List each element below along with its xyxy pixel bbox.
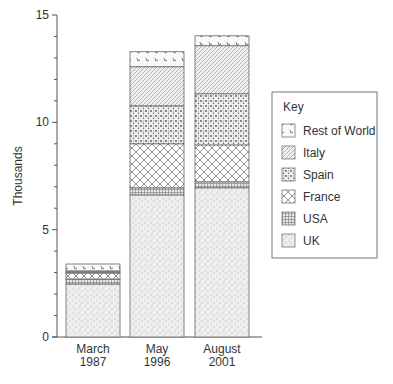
bar-segment-rest-of-world xyxy=(195,36,249,46)
legend-label: USA xyxy=(303,212,328,226)
legend-label: Italy xyxy=(303,146,325,160)
legend-swatch xyxy=(282,124,295,137)
bar-segment-uk xyxy=(66,284,120,337)
legend-swatch xyxy=(282,234,295,247)
category-labels: March 1987 May 1996 August 2001 xyxy=(76,342,241,369)
stacked-bar-chart: 0 5 10 15 Thousands March 1987 May 1996 … xyxy=(0,0,393,384)
y-ticks xyxy=(52,15,57,337)
bar-segment-usa xyxy=(130,188,184,195)
legend-label: France xyxy=(303,190,341,204)
bar-segment-italy xyxy=(195,46,249,94)
bar-segment-usa xyxy=(195,182,249,188)
legend-title: Key xyxy=(283,100,304,114)
bars xyxy=(66,36,249,337)
bar-segment-spain xyxy=(195,94,249,145)
category-label: 1996 xyxy=(144,355,171,369)
y-tick-label: 10 xyxy=(36,115,50,129)
bar-segment-france xyxy=(130,144,184,188)
bar-segment-france xyxy=(66,273,120,279)
bar-segment-rest-of-world xyxy=(66,264,120,271)
legend-label: Spain xyxy=(303,168,334,182)
y-axis-title: Thousands xyxy=(11,146,25,205)
y-tick-label: 15 xyxy=(36,8,50,22)
y-tick-labels: 0 5 10 15 xyxy=(36,8,50,344)
category-label: March xyxy=(76,342,109,356)
bar-segment-france xyxy=(195,145,249,182)
category-label: 2001 xyxy=(209,355,236,369)
legend: Key Rest of WorldItalySpainFranceUSAUK xyxy=(272,92,377,258)
bar-segment-uk xyxy=(195,188,249,337)
legend-swatch xyxy=(282,190,295,203)
bar-segment-italy xyxy=(130,67,184,106)
y-tick-label: 5 xyxy=(42,223,49,237)
bar-segment-rest-of-world xyxy=(130,52,184,67)
category-label: May xyxy=(146,342,169,356)
legend-swatch xyxy=(282,146,295,159)
y-tick-label: 0 xyxy=(42,330,49,344)
legend-swatch xyxy=(282,212,295,225)
bar-segment-spain xyxy=(130,106,184,144)
legend-label: UK xyxy=(303,234,320,248)
legend-swatch xyxy=(282,168,295,181)
legend-label: Rest of World xyxy=(303,124,375,138)
bar-segment-usa xyxy=(66,279,120,284)
category-label: 1987 xyxy=(80,355,107,369)
bar-segment-uk xyxy=(130,195,184,337)
category-label: August xyxy=(203,342,241,356)
